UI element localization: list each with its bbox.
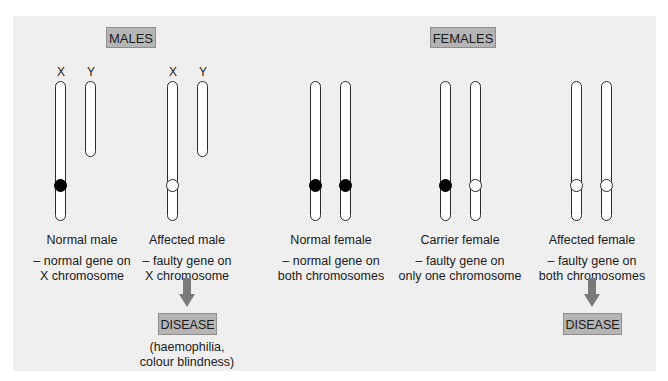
faulty-gene-icon	[166, 179, 179, 192]
case-description: – normal gene on	[256, 254, 406, 269]
faulty-gene-icon	[469, 179, 482, 192]
normal-gene-icon	[309, 179, 322, 192]
x-chromosome	[340, 81, 351, 221]
faulty-gene-icon	[600, 179, 613, 192]
y-chromosome	[85, 81, 96, 157]
disease-label: DISEASE	[158, 313, 217, 335]
case-title: Affected female	[517, 233, 667, 248]
normal-gene-icon	[54, 179, 67, 192]
normal-gene-icon	[439, 179, 452, 192]
disease-examples-line: colour blindness)	[127, 355, 247, 370]
case-title: Affected male	[112, 233, 262, 248]
x-chromosome	[571, 81, 582, 221]
down-arrow-icon	[584, 278, 600, 308]
case-caption: Affected male – faulty gene on X chromos…	[112, 233, 262, 284]
x-chromosome	[310, 81, 321, 221]
disease-label: DISEASE	[563, 313, 622, 335]
case-description: – faulty gene on	[385, 254, 535, 269]
case-description: only one chromosome	[385, 269, 535, 284]
case-description: – faulty gene on	[112, 254, 262, 269]
males-group-label: MALES	[106, 27, 156, 48]
x-chromosome	[167, 81, 178, 221]
x-chromosome	[440, 81, 451, 221]
x-chromosome	[55, 81, 66, 221]
x-chromosome-letter: X	[51, 65, 71, 79]
y-chromosome-letter: Y	[193, 65, 213, 79]
females-group-label: FEMALES	[430, 27, 496, 48]
case-caption: Carrier female – faulty gene on only one…	[385, 233, 535, 284]
disease-examples-line: (haemophilia,	[127, 340, 247, 355]
x-chromosome	[601, 81, 612, 221]
x-chromosome	[470, 81, 481, 221]
faulty-gene-icon	[570, 179, 583, 192]
case-title: Normal female	[256, 233, 406, 248]
down-arrow-icon	[179, 278, 195, 308]
case-description: both chromosomes	[256, 269, 406, 284]
x-chromosome-letter: X	[163, 65, 183, 79]
normal-gene-icon	[339, 179, 352, 192]
case-title: Carrier female	[385, 233, 535, 248]
y-chromosome-letter: Y	[81, 65, 101, 79]
y-chromosome	[197, 81, 208, 157]
case-description: – faulty gene on	[517, 254, 667, 269]
case-caption: Normal female – normal gene on both chro…	[256, 233, 406, 284]
diagram-panel	[13, 16, 656, 371]
disease-examples: (haemophilia, colour blindness)	[127, 340, 247, 370]
case-caption: Affected female – faulty gene on both ch…	[517, 233, 667, 284]
